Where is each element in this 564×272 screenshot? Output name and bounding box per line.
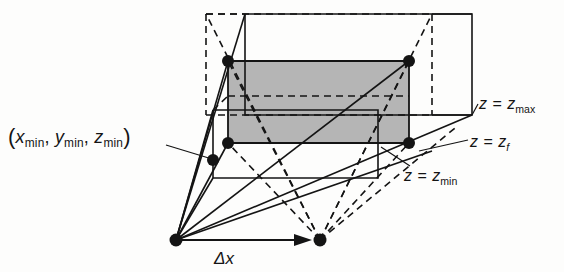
vertex-dot-focal-top-left (222, 55, 234, 67)
right-ray-to-focal-bottom-right (320, 143, 409, 240)
vertex-dot-focal-top-right (403, 55, 415, 67)
delta-symbol: Δ (214, 249, 225, 268)
zmax-lhs: z (479, 95, 487, 112)
leader-zmax (472, 104, 478, 115)
eye-point-left (170, 234, 183, 247)
left-ray-to-near-top-left (176, 110, 213, 240)
delta-x-arrowhead (294, 234, 312, 246)
label-delta-x: Δx (214, 250, 234, 267)
label-x-var: x (16, 127, 25, 147)
label-open-paren: ( (8, 124, 16, 149)
zmin-lhs: z (404, 167, 412, 184)
zf-lhs: z (470, 133, 478, 150)
label-comma-1: , (44, 127, 49, 147)
zmin-rhs-sub: min (440, 175, 457, 187)
eye-point-right (314, 234, 327, 247)
label-y-sub: min (64, 136, 84, 150)
label-z-sub: min (103, 136, 123, 150)
label-z-equals-zf: z = zf (470, 134, 509, 153)
label-z-equals-zmin: z = zmin (404, 168, 457, 187)
left-ray-to-near-bottom-left (176, 178, 213, 240)
leader-zf (419, 140, 468, 151)
delta-x-arrow (178, 234, 312, 246)
label-y-var: y (55, 127, 64, 147)
zf-equals: = (482, 133, 493, 150)
vertex-dot-near-corner-min (207, 154, 219, 166)
vertex-dot-focal-bottom-right (403, 137, 415, 149)
label-close-paren: ) (123, 124, 131, 149)
delta-x-var: x (225, 249, 234, 268)
zf-rhs-sub: f (506, 141, 509, 153)
label-z-equals-zmax: z = zmax (479, 96, 535, 115)
left-eye-rays (176, 14, 472, 240)
label-min-corner-point: (xmin, ymin, zmin) (8, 126, 131, 150)
label-comma-2: , (84, 127, 89, 147)
zmax-rhs-sub: max (515, 103, 535, 115)
frustum-diagram: (xmin, ymin, zmin) z = zmax z = zf z = z… (0, 0, 564, 272)
vertex-dot-focal-bottom-left (222, 137, 234, 149)
right-ray-to-focal-bottom-left (228, 143, 320, 240)
zmin-equals: = (416, 167, 427, 184)
zmax-equals: = (491, 95, 502, 112)
label-x-sub: min (25, 136, 45, 150)
